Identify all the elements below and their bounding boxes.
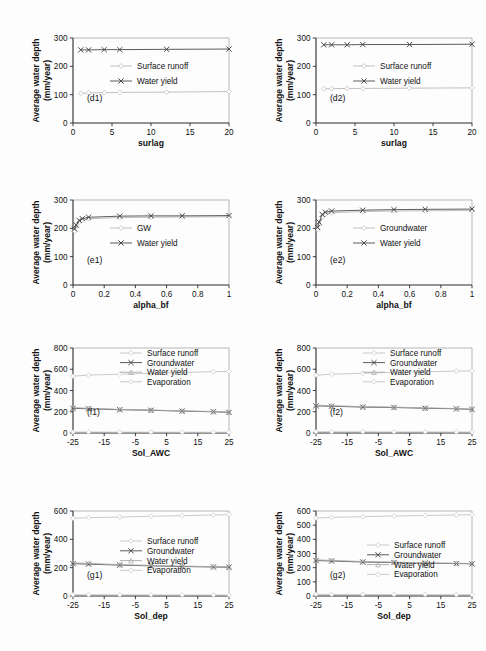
panel-tag-f1: (f1) [87, 407, 100, 417]
panel-tag-f2: (f2) [330, 407, 343, 417]
panel-tag-e1: (e1) [87, 255, 102, 265]
x-tick-label: 0.4 [373, 290, 385, 299]
data-point-marker [407, 86, 412, 91]
y-tick-label: 300 [297, 550, 311, 559]
y-tick-label: 100 [54, 253, 68, 262]
y-tick-label: 100 [297, 91, 311, 100]
x-tick-label: 15 [185, 128, 195, 137]
x-tick-label: 5 [164, 601, 169, 610]
x-tick-label: 5 [407, 438, 412, 447]
data-point-marker [86, 515, 91, 520]
x-axis-title: Sol_AWC [375, 448, 413, 458]
legend-label: Evaporation [390, 378, 434, 387]
data-point-marker [211, 430, 216, 435]
y-tick-label: 100 [54, 91, 68, 100]
data-point-marker [329, 515, 334, 520]
x-tick-label: -15 [98, 438, 110, 447]
chart-panel-e1: 010020030000.20.40.60.81alpha_bfAverage … [0, 170, 243, 332]
panel-tag-d1: (d1) [87, 93, 102, 103]
legend-label: Groundwater [394, 551, 442, 560]
legend-label: Surface runoff [147, 537, 199, 546]
data-point-marker [360, 86, 365, 91]
y-tick-label: 300 [297, 196, 311, 205]
y-axis-title: Average water depth [31, 38, 41, 122]
x-tick-label: 5 [164, 438, 169, 447]
y-tick-label: 400 [54, 387, 68, 396]
x-tick-label: 25 [467, 438, 477, 447]
data-point-marker [227, 430, 232, 435]
legend-label: Surface runoff [394, 541, 446, 550]
x-tick-label: 0.2 [342, 290, 354, 299]
data-point-marker [117, 515, 122, 520]
data-point-marker [360, 514, 365, 519]
data-point-marker [129, 379, 134, 384]
x-tick-label: 15 [436, 438, 446, 447]
y-tick-label: 400 [54, 535, 68, 544]
data-point-marker [470, 85, 475, 90]
data-point-marker [71, 374, 76, 379]
y-tick-label: 0 [306, 429, 311, 438]
series-surface-runoff [321, 85, 474, 91]
legend-label: Groundwater [147, 547, 195, 556]
x-tick-label: 25 [224, 438, 234, 447]
y-tick-label: 0 [306, 592, 311, 601]
y-axis-units: (mm/year) [42, 533, 52, 574]
x-tick-label: 10 [389, 128, 399, 137]
legend: Surface runoffGroundwaterWater yieldEvap… [367, 541, 446, 579]
x-tick-label: 1 [227, 290, 232, 299]
y-axis-units: (mm/year) [285, 370, 295, 411]
y-axis-units: (mm/year) [42, 222, 52, 263]
y-tick-label: 800 [297, 344, 311, 353]
y-tick-label: 200 [54, 564, 68, 573]
x-tick-label: -25 [67, 438, 79, 447]
y-tick-label: 300 [54, 34, 68, 43]
y-tick-label: 200 [54, 224, 68, 233]
data-point-marker [180, 430, 185, 435]
data-point-marker [470, 430, 475, 435]
y-tick-label: 200 [297, 408, 311, 417]
legend-label: Groundwater [147, 359, 195, 368]
legend-label: Evaporation [147, 378, 191, 387]
data-point-marker [71, 516, 76, 521]
data-point-marker [149, 430, 154, 435]
chart-panel-f1: 0200400600800-25-15-551525Sol_AWCAverage… [0, 318, 243, 480]
x-tick-label: 15 [436, 601, 446, 610]
x-axis-title: surlag [138, 138, 164, 148]
x-tick-label: 5 [110, 128, 115, 137]
y-tick-label: 600 [54, 507, 68, 516]
y-axis-units: (mm/year) [42, 370, 52, 411]
chart-panel-d2: 010020030005101520surlagAverage water de… [243, 8, 486, 170]
y-tick-label: 0 [63, 592, 68, 601]
y-tick-label: 500 [297, 521, 311, 530]
data-point-marker [129, 568, 134, 573]
chart-panel-g2: 0100200300400500600-25-15-551525Sol_depA… [243, 481, 486, 643]
data-point-marker [392, 430, 397, 435]
y-axis-units: (mm/year) [42, 60, 52, 101]
x-tick-label: -15 [98, 601, 110, 610]
legend-label: Surface runoff [137, 62, 189, 71]
y-axis-title: Average water depth [31, 511, 41, 595]
data-point-marker [180, 593, 185, 598]
y-tick-label: 0 [63, 281, 68, 290]
data-point-marker [119, 64, 124, 69]
data-point-marker [102, 90, 107, 95]
y-tick-label: 100 [297, 578, 311, 587]
series-surface-runoff [71, 430, 232, 435]
legend-label: Water yield [380, 239, 421, 248]
x-tick-label: 0.6 [404, 290, 416, 299]
series-water-yield [321, 42, 474, 48]
x-tick-label: 10 [146, 128, 156, 137]
panel-tag-e2: (e2) [330, 255, 345, 265]
x-axis-title: alpha_bf [376, 300, 411, 310]
data-point-marker [314, 373, 319, 378]
x-tick-label: 20 [467, 128, 477, 137]
x-tick-label: 25 [467, 601, 477, 610]
data-point-marker [211, 513, 216, 518]
chart-panel-f2: 0200400600800-25-15-551525Sol_AWCAverage… [243, 318, 486, 480]
data-point-marker [227, 512, 232, 517]
data-point-marker [362, 64, 367, 69]
series-water-yield [78, 46, 231, 52]
data-point-marker [211, 369, 216, 374]
data-point-marker [360, 371, 365, 376]
y-axis-title: Average water depth [274, 348, 284, 432]
